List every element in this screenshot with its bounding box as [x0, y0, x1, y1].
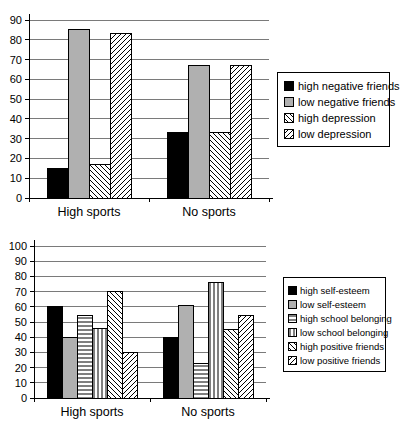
bar	[230, 65, 251, 198]
legend-item: low school belonging	[288, 325, 382, 339]
y-tick-label: 20	[10, 152, 22, 164]
bar	[62, 337, 77, 398]
legend-label: high positive friends	[300, 341, 384, 352]
legend-item: high depression	[284, 110, 385, 126]
y-tick-label: 30	[15, 346, 27, 358]
depression-chart-legend: high negative friendslow negative friend…	[277, 72, 390, 147]
legend-swatch-solid-gray	[284, 97, 294, 107]
bar	[77, 316, 92, 398]
legend-swatch-forwardslash-hatch	[288, 356, 297, 365]
legend-item: low negative friends	[284, 94, 385, 110]
bar	[122, 352, 137, 398]
selfesteem-chart-legend: high self-esteemlow self-esteemhigh scho…	[283, 277, 386, 372]
bar	[223, 330, 238, 398]
y-tick-label: 90	[10, 14, 22, 26]
y-tick-label: 80	[15, 270, 27, 282]
y-tick-label: 0	[21, 392, 27, 404]
legend-item: low self-esteem	[288, 297, 382, 311]
legend-label: low school belonging	[300, 327, 388, 338]
legend-label: high school belonging	[300, 313, 392, 324]
bar	[178, 305, 193, 398]
y-tick-label: 50	[15, 316, 27, 328]
y-tick-label: 20	[15, 362, 27, 374]
y-tick-label: 40	[10, 113, 22, 125]
legend-item: high self-esteem	[288, 283, 382, 297]
bar	[89, 164, 110, 198]
legend-item: high school belonging	[288, 311, 382, 325]
legend-label: low self-esteem	[300, 299, 366, 310]
legend-label: low negative friends	[298, 96, 395, 108]
x-category-label: No sports	[182, 205, 236, 219]
x-category-label: High sports	[57, 205, 120, 219]
y-tick-label: 80	[10, 34, 22, 46]
legend-swatch-vertical-hatch	[288, 328, 297, 337]
legend-item: low positive friends	[288, 353, 382, 367]
y-tick-label: 30	[10, 133, 22, 145]
legend-item: high positive friends	[288, 339, 382, 353]
legend-label: low positive friends	[300, 355, 380, 366]
legend-label: high self-esteem	[300, 285, 370, 296]
legend-swatch-horizontal-hatch	[288, 314, 297, 323]
y-tick-label: 10	[15, 377, 27, 389]
bar	[209, 133, 230, 198]
x-category-label: High sports	[60, 405, 123, 419]
bar	[47, 168, 68, 198]
bar	[163, 337, 178, 398]
y-tick-label: 70	[10, 54, 22, 66]
y-tick-label: 100	[9, 240, 27, 252]
y-tick-label: 60	[15, 301, 27, 313]
bar	[208, 282, 223, 398]
legend-swatch-forwardslash-hatch	[284, 129, 294, 139]
y-tick-label: 90	[15, 255, 27, 267]
x-category-label: No sports	[181, 405, 235, 419]
legend-item: high negative friends	[284, 78, 385, 94]
figure: 0102030405060708090High sportsNo sports …	[0, 0, 400, 425]
y-tick-label: 70	[15, 286, 27, 298]
bar	[47, 307, 62, 398]
legend-swatch-solid-black	[288, 286, 297, 295]
legend-swatch-solid-gray	[288, 300, 297, 309]
bar	[92, 328, 107, 398]
legend-item: low depression	[284, 126, 385, 142]
legend-swatch-solid-black	[284, 81, 294, 91]
y-tick-label: 40	[15, 331, 27, 343]
bar	[167, 133, 188, 198]
bar	[193, 363, 208, 398]
bar	[188, 65, 209, 198]
legend-swatch-backslash-hatch	[284, 113, 294, 123]
y-tick-label: 0	[16, 192, 22, 204]
y-tick-label: 50	[10, 93, 22, 105]
y-tick-label: 10	[10, 172, 22, 184]
legend-swatch-backslash-hatch	[288, 342, 297, 351]
bar	[107, 292, 122, 398]
bar	[238, 316, 253, 398]
legend-label: high negative friends	[298, 80, 400, 92]
legend-label: low depression	[298, 128, 371, 140]
legend-label: high depression	[298, 112, 376, 124]
bar	[68, 30, 89, 198]
bar	[110, 34, 131, 198]
y-tick-label: 60	[10, 73, 22, 85]
